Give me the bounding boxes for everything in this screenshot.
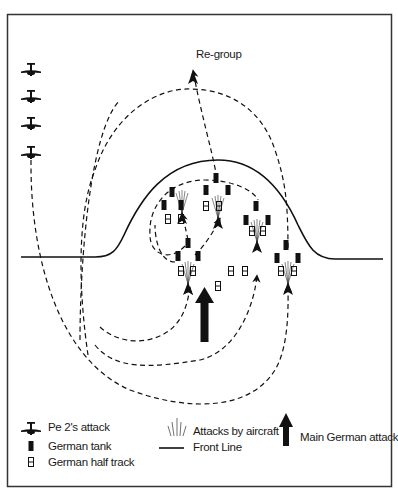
german-half-track-icon: [216, 282, 221, 291]
german-tank-icon: [244, 215, 249, 225]
german-half-track-icon: [166, 215, 171, 224]
inner-circle-attack: [155, 225, 175, 262]
legend-german-half-track-label: German half track: [48, 456, 134, 468]
german-tank-icon: [29, 441, 34, 451]
attack-paths: [31, 70, 288, 404]
german-tank-icon: [204, 185, 209, 195]
german-half-track-icon: [204, 202, 209, 211]
german-half-track-icon: [292, 267, 297, 276]
german-tank-icon: [266, 215, 271, 225]
pe2-plane-icon: [21, 146, 41, 159]
german-tank-icon: [254, 201, 259, 211]
german-tank-icon: [176, 251, 181, 261]
front-line: [21, 160, 383, 259]
pe2-plane-icon: [21, 422, 41, 435]
legend-pe2-attack-label: Pe 2's attack: [48, 421, 110, 433]
legend-german-tank-label: German tank: [48, 440, 111, 452]
legend-attacks-by-aircraft-label: Attacks by aircraft: [193, 425, 279, 437]
german-tank-icon: [186, 238, 191, 248]
german-tank-icon: [170, 187, 175, 197]
german-half-track-icon: [250, 227, 255, 236]
german-tank-icon: [214, 173, 219, 183]
regroup-label: Re-group: [196, 48, 242, 60]
pe2-planes-column: [21, 63, 41, 159]
pe2-plane-icon: [21, 117, 41, 130]
middle-loop-arc: [80, 100, 120, 340]
german-half-tracks: [166, 202, 297, 291]
german-half-track-icon: [29, 458, 34, 467]
aircraft-attack-bursts: [176, 190, 294, 284]
german-tank-icon: [284, 240, 289, 250]
german-tank-icon: [226, 185, 231, 195]
german-tank-icon: [296, 253, 301, 263]
inner-loop-path: [100, 287, 190, 341]
outer-loop-path: [31, 160, 288, 404]
german-half-track-icon: [179, 267, 184, 276]
german-tank-icon: [196, 251, 201, 261]
german-half-track-icon: [243, 267, 248, 276]
pe2-plane-icon: [21, 90, 41, 103]
aircraft-attack-burst-icon: [168, 418, 186, 436]
main-attack-arrow-legend-icon: [279, 413, 293, 446]
second-loop-path: [95, 275, 257, 365]
legend-main-german-attack-label: Main German attack: [300, 431, 398, 443]
german-tank-icon: [275, 253, 280, 263]
german-tank-icon: [162, 200, 167, 210]
pe2-plane-icon: [21, 63, 41, 76]
main-attack-arrow-icon: [195, 287, 214, 342]
legend-front-line-label: Front Line: [193, 441, 242, 453]
german-half-track-icon: [279, 267, 284, 276]
german-half-track-icon: [229, 267, 234, 276]
diagram-frame: [8, 15, 392, 487]
german-tank-icon: [179, 200, 184, 210]
